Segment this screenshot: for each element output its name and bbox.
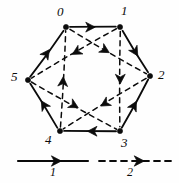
vertex-label-4: 4 xyxy=(45,133,52,146)
legend-layer xyxy=(18,156,172,166)
edge-1-to-3 xyxy=(115,31,125,126)
edge-5-to-0 xyxy=(30,31,63,77)
vertex-label-2: 2 xyxy=(158,68,165,81)
vertex-4[interactable] xyxy=(57,128,62,133)
legend-entry-2 xyxy=(99,156,172,166)
edge-0-to-1 xyxy=(70,22,116,32)
vertex-2[interactable] xyxy=(147,73,152,78)
vertex-1[interactable] xyxy=(117,24,122,29)
vertex-label-3: 3 xyxy=(121,136,128,149)
legend-label-2: 2 xyxy=(127,166,133,178)
graph-figure: 01234512 xyxy=(0,0,179,183)
vertex-label-5: 5 xyxy=(11,70,18,83)
edge-3-to-4 xyxy=(64,126,116,136)
edge-4-to-5 xyxy=(30,84,57,128)
vertex-3[interactable] xyxy=(117,128,122,133)
legend-label-1: 1 xyxy=(50,166,56,178)
edge-layer xyxy=(30,22,148,136)
graph-canvas xyxy=(0,0,179,183)
vertex-0[interactable] xyxy=(63,24,68,29)
vertex-5[interactable] xyxy=(25,77,30,82)
edge-1-to-2 xyxy=(123,31,149,73)
edge-4-to-0 xyxy=(58,31,68,127)
vertex-label-1: 1 xyxy=(121,4,128,17)
vertex-label-0: 0 xyxy=(57,5,64,18)
edge-3-to-2 xyxy=(122,80,148,128)
